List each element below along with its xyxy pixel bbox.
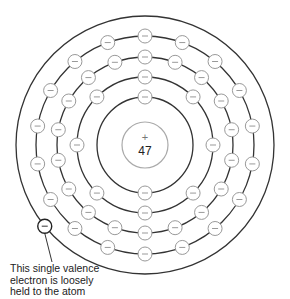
electron [90,186,104,200]
valence-electron-caption: This single valence electron is loosely … [10,263,160,298]
electron [138,90,152,104]
electron [108,55,122,69]
electron [214,94,228,108]
electron [70,138,84,152]
electron [138,247,152,261]
electron [31,119,45,133]
electron [62,182,76,196]
electron [68,55,82,69]
electron [245,119,259,133]
atomic-number: 47 [138,144,152,158]
atom-diagram: +47 [0,0,290,299]
electron [245,157,259,171]
caption-line: held to the atom [10,286,160,298]
electron [232,193,246,207]
electron [175,36,189,50]
electron [101,240,115,254]
electron [90,90,104,104]
caption-line: This single valence [10,263,160,275]
electron [138,50,152,64]
electron [44,193,58,207]
electron [138,70,152,84]
nucleus-charge: + [142,131,148,143]
electron [51,153,65,167]
electron [51,123,65,137]
electron [138,29,152,43]
electron [62,94,76,108]
electron [186,186,200,200]
electron [232,84,246,98]
electron [175,240,189,254]
electron [108,221,122,235]
electron [208,55,222,69]
electron [225,153,239,167]
electron [68,221,82,235]
electron [225,123,239,137]
electron [31,157,45,171]
electron [138,186,152,200]
electron [168,55,182,69]
electron [138,226,152,240]
electron [168,221,182,235]
electron [208,221,222,235]
electron [186,90,200,104]
electron [195,71,209,85]
electron [214,182,228,196]
electron [81,205,95,219]
electron [101,36,115,50]
valence-electron [38,219,52,233]
electron [206,138,220,152]
electron [81,71,95,85]
electron [138,206,152,220]
pointer-line [45,233,52,262]
electron [195,205,209,219]
electron [44,84,58,98]
